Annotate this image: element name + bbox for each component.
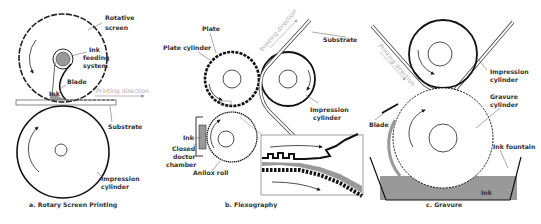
caption-gravure: c. Gravure [426,201,462,208]
impression-hub-gravure [428,42,452,66]
label-ink: Ink [49,90,61,97]
rotation-arrow-screen [29,40,36,73]
label-chamber: chamber [166,161,197,168]
label-rotative: Rotative [105,14,134,21]
blade-gravure [382,104,398,113]
label-anilox: Anilox roll [193,169,228,176]
label-plate: Plate [202,25,220,32]
label-ink-feeding-3: system [83,62,108,70]
label-blade: Blade [67,78,87,85]
impression-cylinder-gravure [409,20,477,88]
leader-substrate [110,106,112,122]
label-printing-direction-flexo: Printing direction [258,8,298,54]
impression-cylinder [17,106,109,198]
label-gravure-2: cylinder [490,101,519,109]
label-substrate-flexo: Substrate [323,36,357,43]
label-impression-1: Impression [101,175,140,183]
anilox-roll [207,112,257,162]
label-ink-flexo: Ink [183,134,195,141]
gravure-cylinder [393,88,493,188]
ink-feeding-core [56,52,70,66]
printing-methods-diagram: Rotative screen Ink feeding system Blade… [0,0,541,224]
label-impression-gravure-2: cylinder [490,76,519,84]
label-ink-feeding-1: Ink [89,46,101,53]
rotation-arrow-anilox [211,120,220,148]
plate-cylinder-hub [223,70,241,88]
label-ink-fountain: Ink fountain [493,143,535,150]
label-substrate: Substrate [108,123,142,130]
label-plate-cylinder: Plate cylinder [163,44,212,52]
label-closed: Closed [172,145,195,152]
impression-hub-flexo [279,70,297,88]
ink-reservoir [199,125,206,149]
panel-gravure: Printing direction Impression cylinder G… [369,20,535,208]
rotation-arrow-impression [28,127,39,172]
plate-cylinder [205,52,259,106]
label-gravure-1: Gravure [490,93,518,100]
leader-blade [61,85,66,88]
leader-impression-flexo [306,95,318,103]
detail-inset [240,117,363,196]
caption-rotary: a. Rotary Screen Printing [29,201,117,209]
anilox-hub [218,131,234,147]
leader-blade-gravure [375,113,384,120]
label-screen: screen [105,24,128,31]
label-impression-flexo-2: cylinder [313,114,342,122]
impression-hub [55,144,67,156]
rotation-arrow-impression-flexo [307,70,310,90]
label-ink-gravure: Ink [481,189,493,196]
label-ink-feeding-2: feeding [83,54,109,62]
leader-plate-cylinder [198,52,210,60]
caption-flexography: b. Flexography [225,201,277,209]
label-impression-flexo-1: Impression [310,106,349,114]
leader-ink-fountain [500,150,508,168]
label-blade-gravure: Blade [369,121,389,128]
impression-cylinder-flexo [261,52,315,106]
label-impression-gravure-1: Impression [490,68,529,76]
label-printing-direction: Printing direction [96,87,149,95]
label-impression-2: cylinder [101,183,130,191]
panel-rotary-screen: Rotative screen Ink feeding system Blade… [16,14,149,209]
label-doctor: doctor [173,153,197,160]
panel-flexography: Plate Plate cylinder Printing direction … [163,8,363,209]
